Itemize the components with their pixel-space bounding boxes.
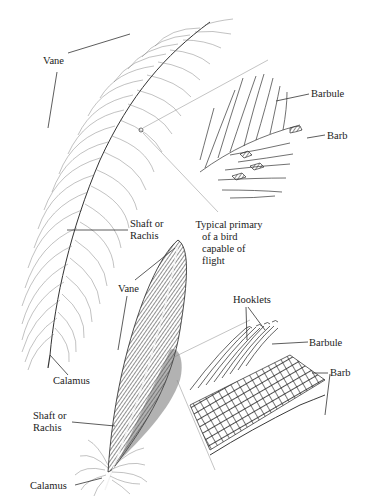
upper-vane-label: Vane	[43, 55, 64, 67]
upper-shaft-line1: Shaft or	[130, 218, 164, 230]
lower-shaft-label: Shaft or Rachis	[33, 410, 67, 434]
upper-calamus-label: Calamus	[53, 375, 90, 387]
upper-shaft-label: Shaft or Rachis	[130, 218, 164, 242]
upper-detail-leaders	[276, 94, 325, 138]
lower-barbule-label: Barbule	[309, 337, 342, 349]
lower-shaft-line1: Shaft or	[33, 410, 67, 422]
upper-shaft-line2: Rachis	[130, 230, 164, 242]
lower-vane-label: Vane	[118, 283, 139, 295]
upper-barbule-label: Barbule	[311, 88, 344, 100]
flight-feather-caption: Typical primary of a bird capable of fli…	[181, 219, 277, 267]
caption-line-3: capable of	[181, 243, 277, 255]
lower-detail-hooklets	[190, 321, 325, 456]
caption-line-1: Typical primary	[181, 219, 277, 231]
hooklets-label: Hooklets	[233, 294, 271, 306]
upper-barb-label: Barb	[327, 130, 347, 142]
caption-line-4: flight	[181, 255, 277, 267]
lower-barb-label: Barb	[330, 367, 350, 379]
upper-detail-barbs	[200, 74, 302, 198]
lower-shaft-line2: Rachis	[33, 422, 67, 434]
lower-calamus-label: Calamus	[30, 480, 67, 492]
lower-feather	[75, 240, 187, 496]
caption-line-2: of a bird	[181, 231, 277, 243]
